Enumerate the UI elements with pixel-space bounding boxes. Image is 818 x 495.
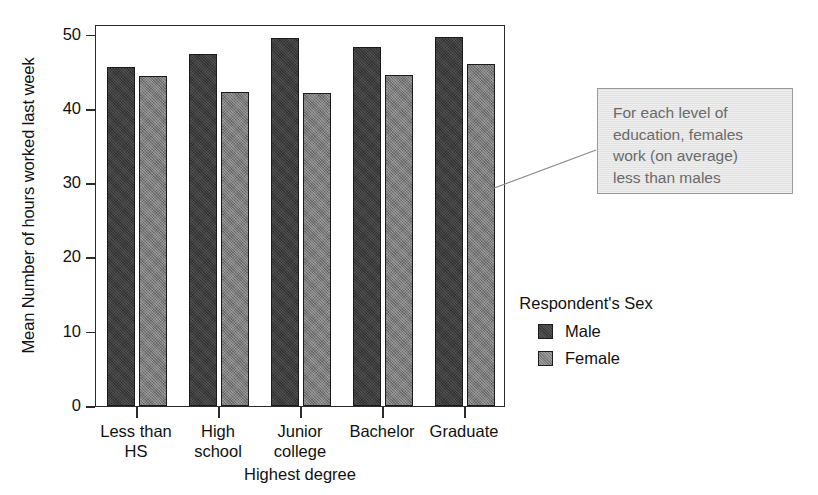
y-tick-mark (86, 183, 95, 185)
annotation-text: For each level of education, females wor… (613, 102, 780, 188)
x-category-label-5: Graduate (404, 421, 524, 441)
y-tick-label: 10 (63, 322, 81, 341)
x-tick-mark-4 (382, 407, 384, 418)
bar-male-group-3 (271, 38, 299, 406)
bar-male-group-1 (107, 67, 135, 406)
annotation-callout: For each level of education, females wor… (597, 88, 793, 194)
bars-layer (96, 26, 504, 406)
bar-female-group-2 (221, 92, 249, 406)
y-tick-mark (86, 35, 95, 37)
x-tick-mark-1 (136, 407, 138, 418)
legend-swatch-male (538, 324, 553, 339)
x-axis-title: Highest degree (95, 465, 505, 484)
bar-female-group-4 (385, 75, 413, 406)
legend-swatch-female (538, 351, 553, 366)
legend-entries: MaleFemale (512, 322, 722, 368)
bar-female-group-1 (139, 76, 167, 406)
legend-title: Respondent's Sex (516, 293, 656, 314)
x-tick-mark-3 (300, 407, 302, 418)
y-tick-mark (86, 257, 95, 259)
y-tick-label: 20 (63, 247, 81, 266)
y-tick-label: 40 (63, 99, 81, 118)
legend-item-male[interactable]: Male (538, 322, 722, 341)
cropped-title-remnant (0, 0, 818, 6)
legend-label-male: Male (565, 322, 601, 341)
y-axis-title: Mean Number of hours worked last week (19, 6, 38, 406)
chart-canvas: Mean Number of hours worked last week 01… (0, 0, 818, 495)
legend: Respondent's Sex MaleFemale (512, 293, 722, 368)
y-tick-mark (86, 109, 95, 111)
y-tick-label: 30 (63, 173, 81, 192)
bar-male-group-5 (435, 37, 463, 406)
plot-area (95, 25, 505, 407)
y-tick-mark (86, 406, 95, 408)
y-tick-label: 0 (72, 396, 81, 415)
y-tick-mark (86, 332, 95, 334)
bar-male-group-4 (353, 47, 381, 406)
bar-female-group-3 (303, 93, 331, 406)
legend-label-female: Female (565, 349, 620, 368)
x-tick-mark-5 (464, 407, 466, 418)
legend-item-female[interactable]: Female (538, 349, 722, 368)
x-tick-mark-2 (218, 407, 220, 418)
bar-female-group-5 (467, 64, 495, 406)
y-tick-label: 50 (63, 25, 81, 44)
bar-male-group-2 (189, 54, 217, 406)
